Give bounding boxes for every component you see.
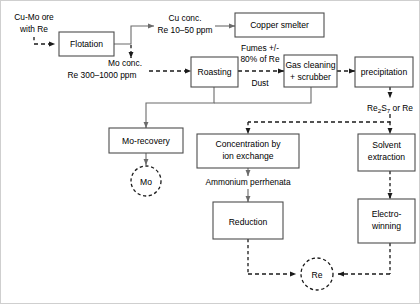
label-re2s7-pre: Re (367, 103, 378, 113)
label-ammonium-perrhenata: Ammonium perrhenata (205, 177, 291, 187)
flowchart-canvas: Flotation Copper smelter Roasting Gas cl… (1, 1, 420, 304)
flowchart-diagram: Flotation Copper smelter Roasting Gas cl… (0, 0, 420, 304)
node-re-product-label: Re (312, 270, 323, 280)
label-mo-conc-line1: Mo conc. (108, 58, 142, 68)
label-fumes-line1: Fumes +/- (241, 43, 279, 53)
label-cu-conc-line1: Cu conc. (168, 13, 201, 23)
box-roasting-label: Roasting (198, 67, 232, 77)
box-solvent-extraction-label-line1: Solvent (372, 140, 401, 150)
box-electrowinning-label-line2: winning (371, 221, 401, 231)
box-mo-recovery-label: Mo-recovery (122, 136, 170, 146)
label-cu-conc-line2: Re 10–50 ppm (158, 25, 213, 35)
label-feed-line2: with Re (19, 24, 48, 34)
box-precipitation-label: precipitation (361, 67, 408, 77)
box-gas-cleaning-label-line2: + scrubber (290, 72, 331, 82)
box-copper-smelter-label: Copper smelter (250, 20, 309, 30)
connector-flotation-to-cuconc (114, 26, 154, 44)
label-re2s7-or-re: Re2S7 or Re (367, 103, 413, 114)
box-solvent-extraction-label-line2: extraction (368, 152, 405, 162)
box-gas-cleaning-label-line1: Gas cleaning (285, 60, 335, 70)
box-concentration-label-line2: ion exchange (222, 151, 273, 161)
label-mo-conc-line2: Re 300–1000 ppm (68, 70, 137, 80)
box-flotation-label: Flotation (70, 39, 103, 49)
connector-re2s7-split (248, 114, 390, 122)
connector-roasting-to-morecovery (146, 87, 214, 128)
node-mo-product-label: Mo (140, 177, 152, 187)
box-concentration-label-line1: Concentration by (216, 139, 282, 149)
label-dust: Dust (251, 78, 269, 88)
label-fumes-line2: 80% of Re (240, 54, 279, 64)
box-electrowinning-label-line1: Electro- (372, 209, 402, 219)
box-reduction-label: Reduction (229, 217, 268, 227)
label-feed-line1: Cu-Mo ore (14, 12, 54, 22)
label-re2s7-post: or Re (390, 103, 413, 113)
connector-gascleaning-dust-join (214, 87, 311, 103)
